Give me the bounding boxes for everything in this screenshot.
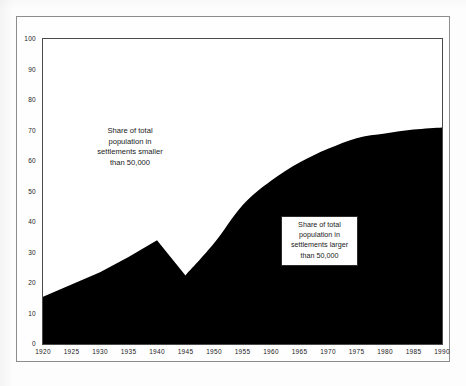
x-tick-label-1970: 1970 (312, 348, 344, 355)
x-tick-label-1940: 1940 (141, 348, 173, 355)
x-tick-label-1960: 1960 (255, 348, 287, 355)
y-tick-label-30: 30 (6, 249, 36, 256)
annotation-smaller-line-1: Share of total (62, 126, 198, 137)
x-tick-label-1950: 1950 (198, 348, 230, 355)
annotation-larger-settlements: Share of total population in settlements… (281, 216, 358, 266)
x-tick-label-1975: 1975 (341, 348, 373, 355)
x-tick-label-1955: 1955 (227, 348, 259, 355)
x-tick-label-1990: 1990 (426, 348, 458, 355)
x-tick-label-1965: 1965 (284, 348, 316, 355)
annotation-smaller-line-2: population in (62, 137, 198, 148)
y-tick-label-80: 80 (6, 96, 36, 103)
annotation-larger-line-1: Share of total (284, 220, 355, 230)
y-tick-label-70: 70 (6, 127, 36, 134)
annotation-larger-line-3: settlements larger (284, 240, 355, 250)
x-tick-label-1935: 1935 (113, 348, 145, 355)
y-tick-label-90: 90 (6, 66, 36, 73)
plot-area (42, 38, 443, 345)
y-tick-label-20: 20 (6, 279, 36, 286)
annotation-smaller-settlements: Share of total population in settlements… (62, 126, 198, 168)
chart-figure: 0102030405060708090100 19201925193019351… (0, 0, 466, 386)
y-tick-label-60: 60 (6, 157, 36, 164)
annotation-larger-line-4: than 50,000 (284, 251, 355, 261)
annotation-smaller-line-3: settlements smaller (62, 147, 198, 158)
x-tick-label-1985: 1985 (398, 348, 430, 355)
x-tick-label-1945: 1945 (170, 348, 202, 355)
y-tick-label-50: 50 (6, 188, 36, 195)
annotation-smaller-line-4: than 50,000 (62, 158, 198, 169)
area-chart-svg (43, 39, 442, 344)
y-tick-label-40: 40 (6, 218, 36, 225)
x-tick-label-1980: 1980 (369, 348, 401, 355)
y-tick-label-0: 0 (6, 340, 36, 347)
y-tick-label-10: 10 (6, 310, 36, 317)
x-tick-label-1925: 1925 (56, 348, 88, 355)
annotation-larger-line-2: population in (284, 230, 355, 240)
x-tick-label-1930: 1930 (84, 348, 116, 355)
y-tick-label-100: 100 (6, 35, 36, 42)
x-tick-label-1920: 1920 (27, 348, 59, 355)
